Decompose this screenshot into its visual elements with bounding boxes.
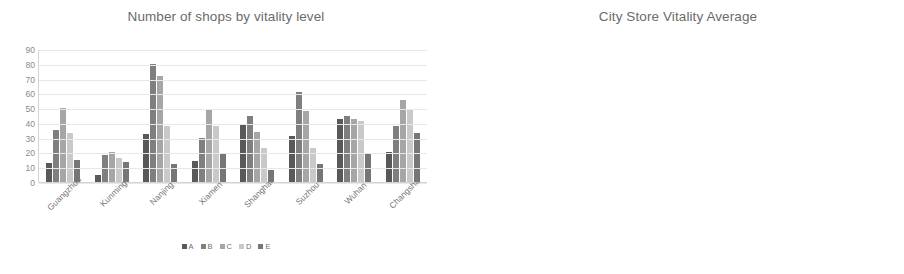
bar — [400, 100, 406, 182]
gridline — [39, 183, 427, 184]
bar-group — [282, 49, 331, 182]
gridline — [39, 94, 427, 95]
bar-group — [233, 49, 282, 182]
left-bar-groups — [39, 49, 427, 182]
bar — [317, 164, 323, 182]
y-axis-tick-label: 60 — [26, 90, 35, 99]
shops-by-vitality-chart: Number of shops by vitality level 010203… — [0, 0, 452, 274]
x-axis-label-cell: Guangzhou — [38, 186, 87, 230]
bar — [206, 110, 212, 182]
bar-group — [88, 49, 137, 182]
left-x-axis-labels: GuangzhouKunmingNanjingXiamenShanghaiSuz… — [38, 186, 426, 230]
y-axis-tick-label: 40 — [26, 120, 35, 129]
gridline — [39, 50, 427, 51]
bar — [247, 116, 253, 183]
bar — [407, 110, 413, 182]
gridline — [39, 139, 427, 140]
bar — [46, 163, 52, 182]
x-axis-label-cell: Nanjing — [135, 186, 184, 230]
left-chart-legend: ABCDE — [0, 242, 452, 251]
bar — [289, 136, 295, 182]
legend-item[interactable]: B — [201, 242, 213, 251]
x-axis-label-cell: Kunming — [87, 186, 136, 230]
bar — [95, 175, 101, 182]
legend-item[interactable]: E — [258, 242, 270, 251]
x-axis-label-cell: Suzhou — [281, 186, 330, 230]
bar — [67, 133, 73, 182]
gridline — [39, 65, 427, 66]
legend-label: C — [227, 242, 232, 251]
y-axis-tick-label: 80 — [26, 61, 35, 70]
right-chart-title: City Store Vitality Average — [452, 9, 904, 24]
gridline — [39, 80, 427, 81]
bar-group — [330, 49, 379, 182]
bar — [157, 76, 163, 182]
y-axis-tick-label: 50 — [26, 105, 35, 114]
bar — [171, 164, 177, 182]
left-chart-title: Number of shops by vitality level — [0, 9, 452, 24]
legend-swatch-icon — [220, 244, 225, 249]
legend-item[interactable]: C — [220, 242, 232, 251]
gridline — [39, 109, 427, 110]
legend-swatch-icon — [239, 244, 244, 249]
bar — [337, 119, 343, 182]
y-axis-tick-label: 70 — [26, 75, 35, 84]
bar — [358, 121, 364, 182]
bar-group — [39, 49, 88, 182]
x-axis-label-cell: Wuhan — [329, 186, 378, 230]
bar — [60, 108, 66, 182]
y-axis-tick-label: 90 — [26, 46, 35, 55]
bar — [143, 134, 149, 182]
legend-label: B — [208, 242, 213, 251]
y-axis-tick-label: 10 — [26, 164, 35, 173]
legend-label: D — [246, 242, 251, 251]
y-axis-tick-label: 20 — [26, 149, 35, 158]
bar — [414, 133, 420, 182]
legend-item[interactable]: D — [239, 242, 251, 251]
gridline — [39, 168, 427, 169]
city-store-vitality-average-chart: City Store Vitality Average 22.22.42.62.… — [452, 0, 904, 274]
bar — [109, 152, 115, 182]
gridline — [39, 124, 427, 125]
legend-swatch-icon — [201, 244, 206, 249]
left-plot-area: 0102030405060708090 — [38, 50, 427, 183]
legend-item[interactable]: A — [182, 242, 194, 251]
x-axis-label-cell: Shanghai — [232, 186, 281, 230]
legend-label: E — [265, 242, 270, 251]
bar — [344, 116, 350, 182]
bar-group — [136, 49, 185, 182]
y-axis-tick-label: 0 — [30, 179, 35, 188]
bar-group — [185, 49, 234, 182]
x-axis-tick-label: Suzhou — [294, 180, 321, 207]
x-axis-tick-label: Wuhan — [343, 181, 368, 206]
x-axis-tick-label: Nanjing — [149, 180, 176, 207]
bar-group — [379, 49, 428, 182]
x-axis-label-cell: Xiamen — [184, 186, 233, 230]
legend-label: A — [189, 242, 194, 251]
bar — [53, 130, 59, 182]
bar — [351, 119, 357, 182]
gridline — [39, 153, 427, 154]
legend-swatch-icon — [258, 244, 263, 249]
x-axis-tick-label: Xiamen — [197, 180, 224, 207]
legend-swatch-icon — [182, 244, 187, 249]
chart-sheet: Number of shops by vitality level 010203… — [0, 0, 904, 274]
bar — [199, 138, 205, 182]
bar — [303, 111, 309, 182]
bar — [192, 161, 198, 182]
y-axis-tick-label: 30 — [26, 134, 35, 143]
x-axis-label-cell: Changsha — [378, 186, 427, 230]
bar — [386, 152, 392, 182]
